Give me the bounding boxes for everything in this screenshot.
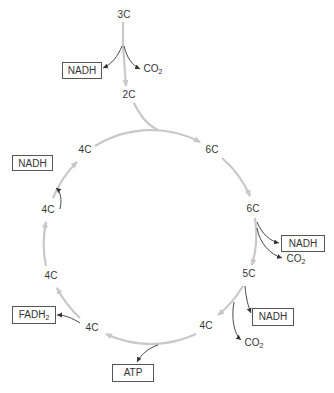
krebs-cycle-diagram: 3C NADH CO2 2C 6C 6C 5C 4C 4C 4C 4C 4C N… (0, 0, 334, 393)
box-atp: ATP (112, 364, 154, 382)
label-co2-5c: CO2 (245, 337, 264, 352)
box-nadh-entry: NADH (62, 62, 102, 79)
label-4c-left-lower: 4C (45, 270, 58, 282)
co2-5c-text: CO (245, 337, 260, 348)
nadh-entry-text: NADH (68, 65, 96, 76)
arrow-to-nadh-entry (103, 46, 122, 68)
label-co2-6c: CO2 (287, 253, 306, 268)
co2-entry-subscript: 2 (159, 68, 163, 75)
cycle-seg-4c-4c-upperleft (53, 162, 77, 198)
label-4c-left: 4C (42, 204, 55, 216)
cycle-seg-6c-5c (252, 218, 256, 265)
fadh2-text: FADH2 (19, 309, 50, 320)
arrow-to-nadh-6c (257, 222, 279, 243)
label-5c: 5C (243, 268, 256, 280)
nadh-4c-text: NADH (18, 158, 46, 169)
cycle-seg-5c-4c (218, 286, 243, 315)
arrow-to-co2-entry (124, 46, 140, 69)
cycle-seg-4c-4c-left (44, 222, 46, 266)
label-4c-upper-left: 4C (79, 144, 92, 156)
cycle-seg-6c-6c (222, 158, 250, 196)
co2-5c-subscript: 2 (260, 342, 264, 349)
atp-text: ATP (124, 367, 143, 378)
label-co2-entry: CO2 (144, 63, 163, 78)
box-nadh-4c: NADH (12, 155, 53, 171)
arrow-to-co2-5c (233, 302, 241, 340)
fadh-text: FADH (19, 309, 46, 320)
nadh-5c-text: NADH (259, 311, 287, 322)
co2-entry-text: CO (144, 63, 159, 74)
entry-stem-arrow (123, 22, 126, 86)
cycle-seg-to-6c (95, 130, 200, 146)
co2-6c-subscript: 2 (302, 258, 306, 265)
box-fadh2: FADH2 (12, 306, 56, 324)
arrow-to-nadh-5c (245, 286, 251, 313)
box-nadh-5c: NADH (252, 308, 294, 326)
label-6c-first: 6C (206, 144, 219, 156)
label-6c-second: 6C (247, 203, 260, 215)
label-3c: 3C (118, 9, 131, 21)
label-4c-bottom-left: 4C (86, 322, 99, 334)
nadh-6c-text: NADH (289, 238, 317, 249)
cycle-arrows (0, 0, 334, 393)
label-2c: 2C (123, 89, 136, 101)
label-4c-lower-right: 4C (200, 320, 213, 332)
fadh-subscript: 2 (45, 314, 49, 321)
cycle-seg-4c-4c-lowerleft (57, 288, 80, 318)
arrow-to-atp (137, 345, 158, 362)
cycle-seg-4c-4c-bottom (106, 334, 196, 344)
box-nadh-6c: NADH (281, 235, 325, 252)
co2-6c-text: CO (287, 253, 302, 264)
entry-join-curve (134, 103, 158, 130)
